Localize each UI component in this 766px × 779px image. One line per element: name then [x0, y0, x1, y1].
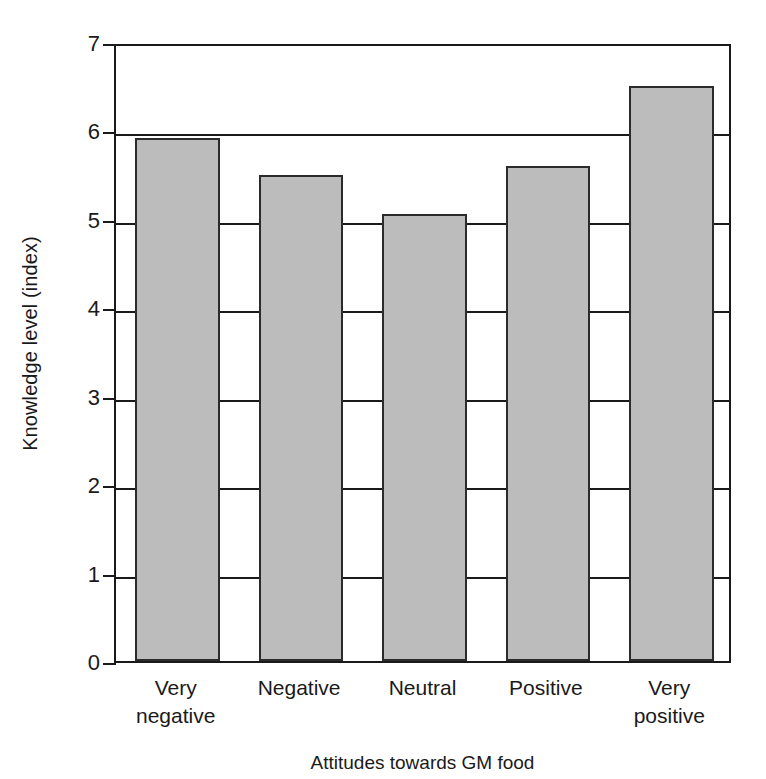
x-axis-tick-label: Positive: [484, 674, 607, 702]
x-axis-tick-label-line: positive: [608, 702, 731, 730]
x-axis-tick-label-line: Positive: [484, 674, 607, 702]
x-axis-tick-label-line: negative: [114, 702, 237, 730]
x-axis-tick-label-line: Very: [608, 674, 731, 702]
y-axis-tick-label: 4: [56, 298, 100, 320]
bar: [629, 86, 714, 661]
bar-chart-figure: Knowledge level (index) 01234567 Veryneg…: [0, 0, 766, 779]
y-axis-tick-label: 0: [56, 652, 100, 674]
bar: [382, 214, 467, 661]
y-axis-tick-label: 5: [56, 210, 100, 232]
x-axis-title: Attitudes towards GM food: [114, 752, 731, 774]
y-axis-tick-label: 2: [56, 475, 100, 497]
bar: [259, 175, 344, 661]
x-axis-tick-labels: VerynegativeNegativeNeutralPositiveVeryp…: [114, 674, 731, 754]
x-axis-tick-label: Verypositive: [608, 674, 731, 731]
bar: [135, 138, 220, 661]
y-axis-tick-labels: 01234567: [56, 44, 100, 663]
bar: [506, 166, 591, 661]
x-axis-tick-label-line: Very: [114, 674, 237, 702]
y-axis-title: Knowledge level (index): [19, 179, 42, 509]
y-axis-tick: [103, 663, 116, 665]
bars-layer: [116, 46, 729, 661]
y-axis-tick-label: 1: [56, 564, 100, 586]
x-axis-tick-label: Verynegative: [114, 674, 237, 731]
y-axis-tick-label: 7: [56, 33, 100, 55]
x-axis-tick-label-line: Neutral: [361, 674, 484, 702]
x-axis-tick-label: Neutral: [361, 674, 484, 702]
y-axis-tick-label: 6: [56, 121, 100, 143]
y-axis-tick-label: 3: [56, 387, 100, 409]
x-axis-tick-label-line: Negative: [237, 674, 360, 702]
x-axis-tick-label: Negative: [237, 674, 360, 702]
plot-area: [114, 44, 731, 663]
